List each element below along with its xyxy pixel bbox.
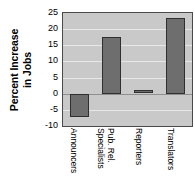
x-tick-label-line: Announcers [69, 128, 79, 173]
x-tick-label-line: Specialists [96, 128, 106, 169]
x-axis-tick-labels: Announcers Pub. Rel.Specialists Reporter… [62, 128, 193, 190]
y-tick-label: 0 [36, 88, 58, 98]
y-tick-label: 25 [36, 7, 58, 17]
x-tick-label-line: Reporters [134, 128, 144, 165]
x-tick-label: Reporters [127, 128, 159, 188]
plot-area [62, 12, 193, 127]
y-tick-label: 20 [36, 23, 58, 33]
bars-layer [63, 13, 192, 126]
bar [70, 94, 89, 117]
y-tick-label: 10 [36, 55, 58, 65]
x-tick-label: Pub. Rel.Specialists [94, 128, 126, 188]
x-tick-label-line: Translators [166, 128, 176, 170]
y-axis-title: Percent Increase in Jobs [4, 15, 38, 125]
x-tick-label-line: Pub. Rel. [106, 128, 116, 163]
y-tick-label: 15 [36, 39, 58, 49]
y-tick-label: -5 [36, 104, 58, 114]
bar-chart: Percent Increase in Jobs 25 20 15 10 5 0… [0, 0, 195, 190]
x-tick-label-text: Announcers [69, 128, 79, 173]
bar [102, 37, 121, 94]
x-tick-label: Announcers [62, 128, 94, 188]
y-tick-label: 5 [36, 72, 58, 82]
x-tick-label-text: Translators [166, 128, 176, 170]
x-tick-label: Translators [159, 128, 191, 188]
y-tick-label: -10 [36, 120, 58, 130]
x-tick-label-text: Reporters [134, 128, 144, 165]
x-tick-label-text: Pub. Rel.Specialists [96, 128, 115, 169]
y-axis-title-line-1: Percent Increase [8, 29, 21, 111]
bar [166, 18, 185, 94]
bar [134, 90, 153, 93]
y-axis-tick-labels: 25 20 15 10 5 0 -5 -10 [36, 7, 58, 132]
y-axis-title-line-2: in Jobs [21, 52, 34, 88]
